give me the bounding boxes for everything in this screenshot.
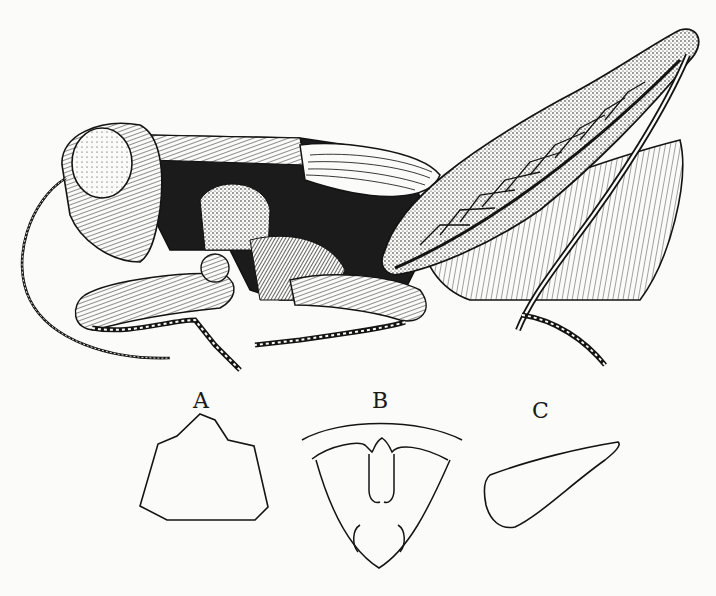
pronotum [145, 135, 305, 165]
grasshopper-illustration [0, 0, 716, 596]
figure-label-c: C [532, 398, 549, 423]
compound-eye [72, 128, 132, 198]
front-knee [201, 254, 229, 282]
figure-label-a: A [193, 388, 209, 413]
front-tibia [92, 320, 240, 370]
mid-tibia [255, 322, 405, 345]
figure-label-b: B [372, 388, 388, 413]
hind-tarsus [522, 315, 605, 365]
front-femur [75, 274, 234, 330]
